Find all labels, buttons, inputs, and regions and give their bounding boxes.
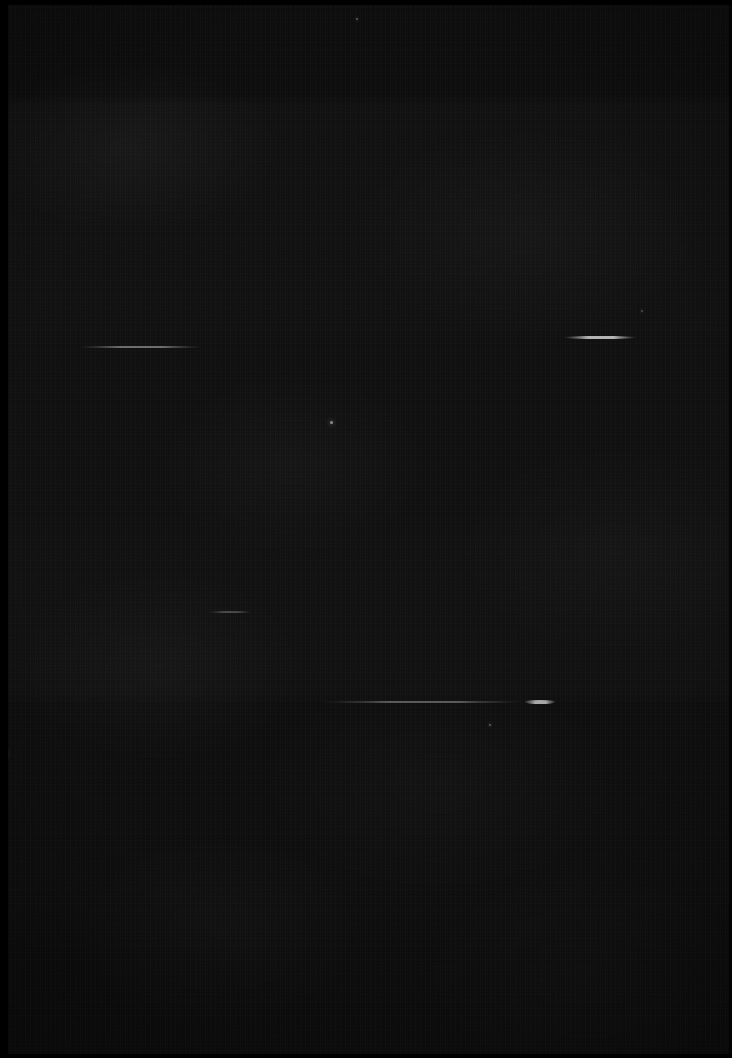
dark-exposure-frame [0, 0, 732, 1058]
noise-field-base [0, 0, 732, 1058]
